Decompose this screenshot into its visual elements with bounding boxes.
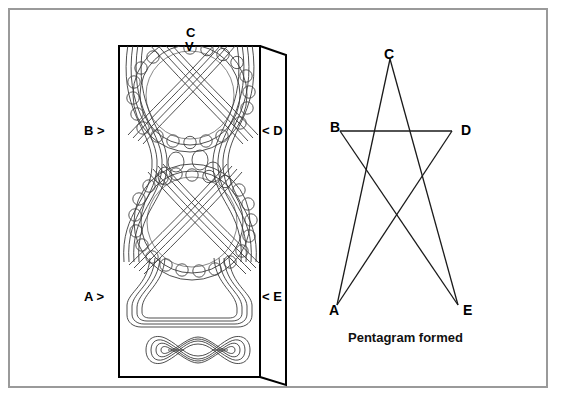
pentagram-edge-AC <box>337 59 390 305</box>
pentagram-vertex-a: A <box>329 303 339 317</box>
pentagram-edge-EB <box>340 131 458 305</box>
pentagram-caption: Pentagram formed <box>348 330 463 345</box>
pentagram-edge-CE <box>390 59 458 305</box>
pentagram-vertex-c: C <box>384 47 394 61</box>
pentagram-graphic <box>0 0 566 411</box>
pentagram-vertex-b: B <box>330 120 340 134</box>
pentagram-vertex-d: D <box>461 123 471 137</box>
figure-root: C V B > < D A > < E ABCDE Pentagram form… <box>0 0 566 411</box>
pentagram-edge-DA <box>337 131 452 305</box>
pentagram-edges <box>337 59 458 305</box>
pentagram-vertex-e: E <box>463 303 472 317</box>
